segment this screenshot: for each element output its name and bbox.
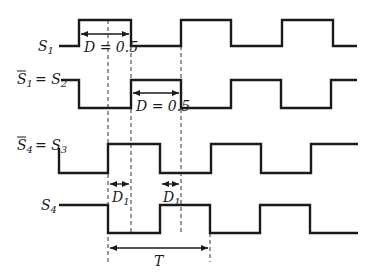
waveform-s3 (59, 144, 358, 173)
delay-label-1: D1 (111, 189, 130, 207)
duty-label-s1: D = 0.5 (83, 39, 138, 55)
label-s4bar-eq-s3: S4= S3 (17, 137, 67, 155)
period-label: T (154, 253, 165, 269)
duty-label-s2: D = 0.5 (135, 98, 190, 114)
label-s1: S1 (38, 38, 54, 56)
timing-diagram: S1 S1= S2 S4= S3 S4 D = 0.5 D = 0.5 D1 D… (0, 0, 379, 278)
label-s1bar-eq-s2: S1= S2 (17, 71, 67, 89)
waveform-s2 (61, 80, 357, 108)
waveform-s4 (59, 205, 358, 233)
label-s4: S4 (41, 197, 57, 215)
delay-label-2: D1 (162, 189, 181, 207)
